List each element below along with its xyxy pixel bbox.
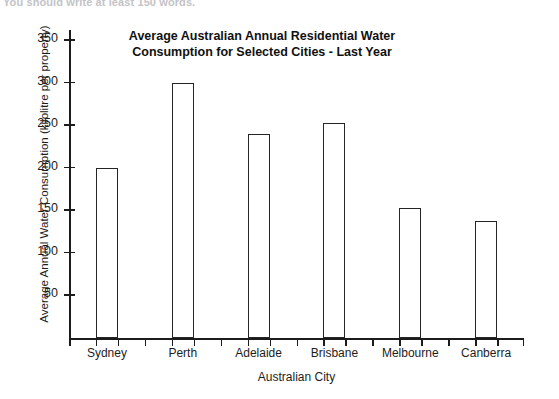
bar-perth: [172, 83, 194, 338]
y-tick-label-350: 350: [37, 31, 58, 45]
x-category-label-brisbane: Brisbane: [297, 346, 373, 360]
y-tick-label-300: 300: [37, 74, 58, 88]
x-tick-canberra-left: [475, 338, 477, 346]
y-tick-label-100: 100: [37, 244, 58, 258]
x-tick-adelaide-left: [248, 338, 250, 346]
plot-area: 50100150200250300350 SydneyPerthAdelaide…: [69, 30, 524, 340]
bar-brisbane: [323, 123, 345, 338]
y-tick-350: 350: [64, 39, 75, 41]
x-tick-boundary-start: [69, 338, 71, 346]
x-tick-brisbane-left: [323, 338, 325, 346]
y-tick-100: 100: [64, 252, 75, 254]
x-tick-melbourne-right: [421, 338, 423, 346]
chart-title: Average Australian Annual Residential Wa…: [104, 28, 420, 60]
x-category-label-adelaide: Adelaide: [221, 346, 297, 360]
y-tick-300: 300: [64, 82, 75, 84]
x-tick-canberra-right: [497, 338, 499, 346]
x-tick-sydney-left: [96, 338, 98, 346]
x-tick-melbourne-left: [399, 338, 401, 346]
x-category-label-sydney: Sydney: [69, 346, 145, 360]
y-tick-label-250: 250: [37, 116, 58, 130]
y-tick-50: 50: [64, 294, 75, 296]
bar-canberra: [475, 221, 497, 338]
x-category-label-melbourne: Melbourne: [372, 346, 448, 360]
bar-chart-figure: Average Annual Water Consumption (kiloli…: [0, 0, 559, 399]
chart-title-line-2: Consumption for Selected Cities - Last Y…: [104, 44, 420, 60]
x-tick-boundary-2: [221, 338, 223, 346]
x-tick-boundary-4: [372, 338, 374, 346]
y-tick-label-50: 50: [44, 286, 58, 300]
y-tick-label-150: 150: [37, 201, 58, 215]
x-tick-adelaide-right: [270, 338, 272, 346]
bar-sydney: [96, 168, 118, 338]
y-tick-200: 200: [64, 167, 75, 169]
x-category-label-perth: Perth: [145, 346, 221, 360]
x-tick-boundary-5: [448, 338, 450, 346]
bar-melbourne: [399, 208, 421, 338]
chart-title-line-1: Average Australian Annual Residential Wa…: [129, 29, 395, 43]
x-tick-boundary-end: [523, 338, 525, 346]
x-category-label-canberra: Canberra: [448, 346, 524, 360]
x-tick-boundary-3: [297, 338, 299, 346]
x-tick-boundary-1: [145, 338, 147, 346]
x-tick-brisbane-right: [345, 338, 347, 346]
y-tick-250: 250: [64, 124, 75, 126]
y-tick-150: 150: [64, 209, 75, 211]
x-tick-perth-left: [172, 338, 174, 346]
x-tick-sydney-right: [118, 338, 120, 346]
x-tick-perth-right: [194, 338, 196, 346]
y-tick-label-200: 200: [37, 159, 58, 173]
bar-adelaide: [248, 134, 270, 338]
x-axis-title: Australian City: [69, 370, 524, 384]
